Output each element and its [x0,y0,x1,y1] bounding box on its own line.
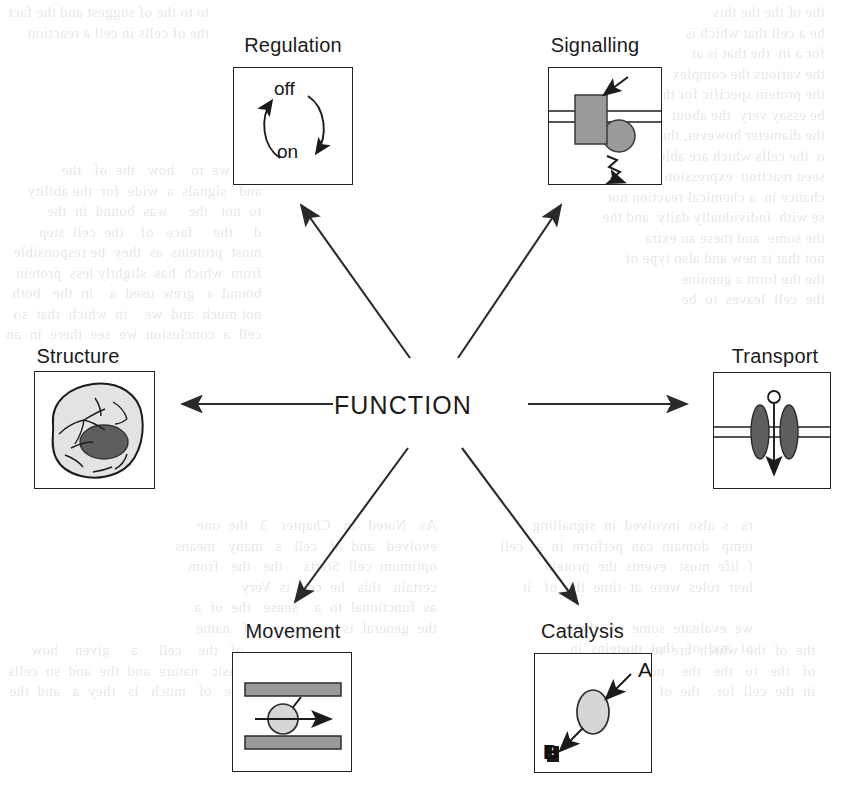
filament-upper [245,683,341,696]
catalysis-product-label: B [543,740,558,764]
membrane-channel-icon [713,372,831,489]
catalysis-substrate-label: A [638,658,652,682]
regulation-state-off: off [274,78,295,100]
node-label-movement: Movement [228,620,358,643]
figure-canvas: to to the of suggest and the fact the of… [0,0,851,797]
bleed-through-block: of the cell a given how basic nature and… [8,640,244,702]
substrate-arrow [607,674,631,698]
node-label-catalysis: Catalysis [520,620,645,643]
node-label-transport: Transport [715,345,835,368]
motor-filament-icon [232,652,352,772]
arrow-to-catalysis [462,448,578,604]
product-arrow [561,728,583,750]
transported-solute [768,391,780,403]
signal-transducer-circle [603,120,635,152]
filament-lower [245,736,341,749]
channel-subunit-right [780,405,798,459]
enzyme-body [577,690,609,734]
arrow-to-signalling [458,205,561,358]
regulation-state-on: on [277,141,298,163]
cell-structure-icon [34,371,155,489]
incoming-signal-arrow [605,77,628,94]
channel-subunit-left [751,405,769,459]
arrow-to-movement [295,448,408,602]
bleed-through-block: No we to how the of the and signals a wi… [6,160,261,345]
signalling-receptor-icon [548,67,662,185]
node-label-signalling: Signalling [535,34,655,57]
node-label-structure: Structure [18,345,138,368]
arrow-to-regulation [301,205,410,358]
receptor-rect [575,95,607,144]
center-label: FUNCTION [334,391,472,420]
bleed-through-block: to to the of suggest and the fact the of… [8,2,209,43]
response-zigzag-arrow [607,156,623,182]
node-label-regulation: Regulation [233,34,353,57]
arc-off-to-on [308,96,324,152]
